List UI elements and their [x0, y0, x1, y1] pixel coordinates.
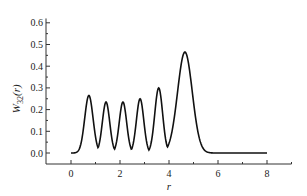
- y-axis-label: W32(r): [10, 84, 25, 113]
- y-tick-label: 0.5: [31, 39, 44, 50]
- y-tick-label: 0.4: [31, 61, 44, 72]
- x-tick-label: 6: [216, 168, 221, 179]
- y-tick-label: 0.0: [31, 148, 44, 159]
- w32-curve: [71, 52, 267, 153]
- x-tick-label: 8: [265, 168, 270, 179]
- data-series: [71, 52, 267, 153]
- x-tick-label: 2: [118, 168, 123, 179]
- x-tick-label: 0: [69, 168, 74, 179]
- x-axis-label: r: [167, 180, 172, 192]
- y-tick-label: 0.3: [31, 82, 44, 93]
- y-tick-label: 0.1: [31, 126, 44, 137]
- y-tick-label: 0.6: [31, 17, 44, 28]
- x-tick-label: 4: [167, 168, 172, 179]
- y-tick-label: 0.2: [31, 104, 44, 115]
- line-chart: 024680.00.10.20.30.40.50.6 r W32(r): [0, 0, 307, 196]
